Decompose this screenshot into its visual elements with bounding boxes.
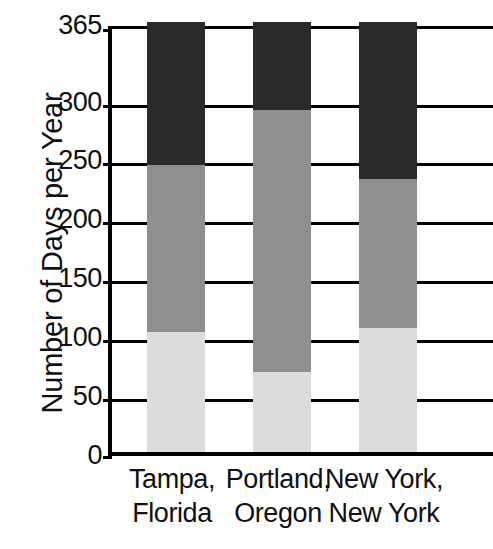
- bar-segment-light-gray-segment: [147, 332, 205, 452]
- bar-segment-dark-segment: [253, 22, 311, 110]
- bar-segment-medium-gray-segment: [359, 179, 417, 329]
- y-tick-mark: [103, 105, 112, 108]
- y-tick-mark: [103, 456, 112, 459]
- bar-2: [253, 22, 311, 452]
- plot-area: [108, 26, 493, 456]
- bar-segment-light-gray-segment: [253, 372, 311, 452]
- y-tick-mark: [103, 281, 112, 284]
- y-tick-label: 300: [36, 89, 102, 116]
- y-tick-mark: [103, 222, 112, 225]
- bar-segment-dark-segment: [359, 22, 417, 179]
- y-tick-label: 150: [36, 265, 102, 292]
- bar-segment-dark-segment: [147, 22, 205, 165]
- x-tick-label-line2: New York: [299, 496, 469, 530]
- x-axis-tick-labels: Tampa,FloridaPortland,OregonNew York,New…: [108, 462, 493, 546]
- bars-layer: [112, 29, 493, 452]
- y-tick-label: 250: [36, 147, 102, 174]
- stacked-bar-chart: Number of Days per Year 0501001502002503…: [0, 0, 493, 549]
- bar-segment-medium-gray-segment: [253, 110, 311, 372]
- bar-segment-light-gray-segment: [359, 328, 417, 452]
- bar-1: [147, 22, 205, 452]
- y-tick-mark: [103, 29, 112, 32]
- y-tick-mark: [103, 340, 112, 343]
- x-tick-label: New York,New York: [299, 462, 469, 530]
- y-tick-label: 100: [36, 324, 102, 351]
- y-tick-label: 50: [36, 383, 102, 410]
- y-tick-label: 200: [36, 206, 102, 233]
- y-tick-mark: [103, 163, 112, 166]
- x-tick-label-line1: New York,: [325, 464, 443, 494]
- bar-segment-medium-gray-segment: [147, 165, 205, 332]
- y-tick-label: 365: [36, 12, 102, 39]
- bar-3: [359, 22, 417, 452]
- y-tick-mark: [103, 399, 112, 402]
